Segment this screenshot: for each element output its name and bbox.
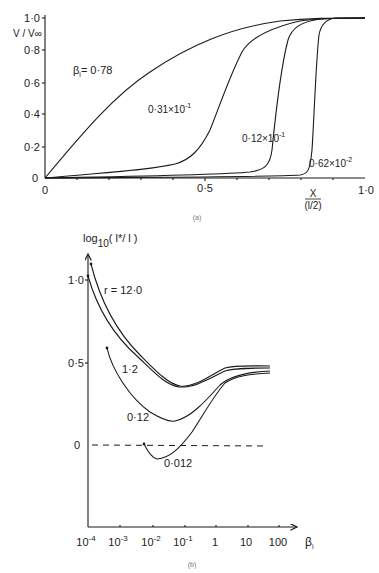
x-tick-label: 10-4 [76, 534, 96, 548]
x-tick-label: 100 [269, 536, 287, 548]
x-axis-label-a-bottom: (l/2) [304, 200, 321, 211]
caption-a: (a) [193, 214, 202, 222]
curve-beta-078 [45, 18, 365, 178]
label-beta-062e-2: 0·62×10-2 [309, 156, 352, 169]
y-tick-label: 0 [32, 172, 38, 184]
figure-a: 1·0 0·8 0·6 0·4 0·2 0 V / V∞ 0 0·5 1·0 X… [13, 12, 374, 222]
label-r-0-012: 0·012 [164, 457, 192, 469]
x-tick-label: 1 [212, 536, 218, 548]
figure-b: 1·0 0·5 0 log10( l*/ l ) 10-4 10-3 10-2 … [68, 232, 314, 569]
figure-canvas: 1·0 0·8 0·6 0·4 0·2 0 V / V∞ 0 0·5 1·0 X… [0, 0, 379, 573]
caption-b: (b) [188, 561, 197, 569]
y-tick-label: 0·2 [24, 141, 40, 153]
label-r-0-12: 0·12 [127, 411, 149, 423]
label-beta-012e-1: 0·12×10-1 [242, 131, 285, 144]
label-beta-078: βi= 0·78 [73, 64, 112, 78]
x-tick-label: 0 [42, 184, 48, 196]
label-beta-031e-1: 0·31×10-1 [148, 102, 191, 115]
y-tick-label: 0 [74, 439, 80, 451]
x-tick-label: 10-3 [108, 534, 128, 548]
x-axis-label-a-top: X [310, 188, 317, 199]
x-axis-label-b: βi [305, 535, 314, 550]
y-tick-label: 0·5 [68, 357, 84, 369]
label-r-1-2: 1·2 [122, 363, 138, 375]
x-tick-label: 1·0 [358, 184, 374, 196]
x-tick-label: 10-1 [173, 534, 193, 548]
y-tick-label: 0·8 [24, 44, 40, 56]
y-tick-label: 0·4 [24, 108, 40, 120]
x-tick-label: 0·5 [197, 182, 213, 194]
y-axis-label-b: log10( l*/ l ) [83, 232, 138, 249]
y-tick-label: 0·6 [24, 77, 40, 89]
y-tick-label: 1·0 [24, 12, 40, 24]
y-tick-label: 1·0 [68, 274, 84, 286]
y-axis-label-a: V / V∞ [13, 28, 42, 39]
x-tick-label: 10-2 [141, 534, 161, 548]
label-r-12-0: r = 12·0 [104, 284, 142, 296]
x-tick-label: 10 [240, 536, 252, 548]
